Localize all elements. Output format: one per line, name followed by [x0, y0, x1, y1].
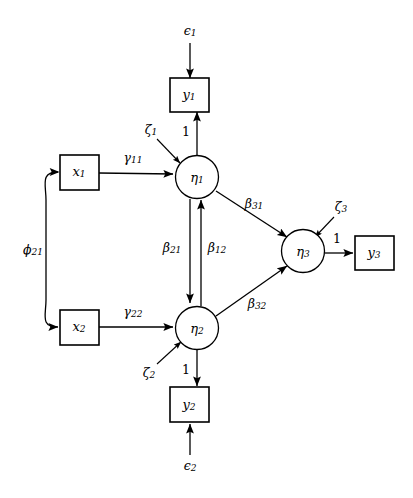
label-gamma22: γ22: [124, 304, 143, 320]
label-loading-y3: 1: [333, 231, 341, 246]
diagram-canvas: y1 x1 x2 y2 y3 η1 η2 η3 ϵ1 ϵ2 ζ1 ζ2 ζ3 γ…: [0, 0, 413, 498]
label-beta12: β12: [207, 240, 227, 256]
label-phi21: ϕ21: [23, 242, 43, 258]
label-beta31: β31: [244, 196, 264, 212]
edge-zeta3-to-eta3: [315, 217, 334, 237]
label-epsilon1: ϵ1: [184, 23, 197, 39]
edge-zeta1-to-eta1: [157, 139, 180, 163]
label-beta21: β21: [162, 240, 182, 256]
label-beta32: β32: [247, 296, 267, 312]
edge-x1-to-eta1: [99, 173, 173, 174]
label-zeta3: ζ3: [335, 199, 348, 215]
label-epsilon2: ϵ2: [184, 458, 197, 474]
edge-phi21-covariance: [45, 172, 58, 327]
sem-path-diagram: y1 x1 x2 y2 y3 η1 η2 η3 ϵ1 ϵ2 ζ1 ζ2 ζ3 γ…: [0, 0, 413, 498]
label-gamma11: γ11: [124, 150, 143, 166]
label-zeta2: ζ2: [143, 365, 156, 381]
edge-zeta2-to-eta2: [157, 342, 181, 364]
label-loading-y2: 1: [182, 362, 190, 377]
label-loading-y1: 1: [182, 124, 190, 139]
label-zeta1: ζ1: [145, 122, 158, 138]
